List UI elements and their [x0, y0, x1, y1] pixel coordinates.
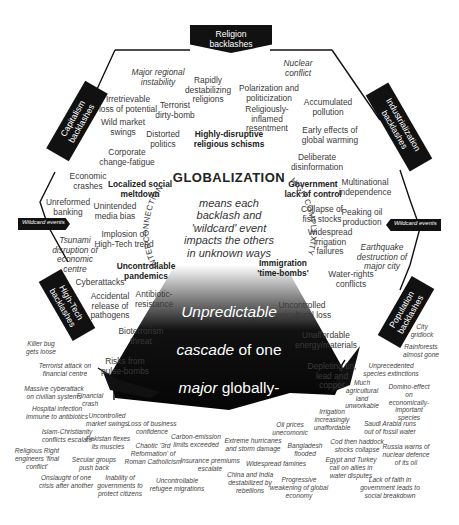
outer-label: Irrigation increasingly unaffordable	[314, 408, 351, 431]
inner-label: Deliberate disinformation	[291, 153, 343, 172]
outer-label: Massive cyberattack on civilian systems	[24, 385, 84, 401]
outer-label: Bangladesh flooded	[288, 442, 323, 458]
inner-label: Early effects of global warming	[302, 126, 358, 145]
inner-label: Localized social meltdown	[108, 180, 172, 199]
outer-label: Hospital infection immune to antibiotics	[26, 405, 88, 421]
outer-label: Uncontrolled market swings	[86, 412, 128, 428]
inner-label: Uncontrollable pandemics	[117, 262, 176, 281]
outer-label: Rainforests almost gone	[403, 343, 439, 359]
outer-label: Lack of faith in government leads to soc…	[360, 476, 420, 499]
inner-label: Terrorist dirty-bomb	[155, 101, 195, 120]
cascade-line-2b: of one	[234, 341, 281, 358]
inner-label: Uncontrolled agricultural loss	[273, 301, 331, 320]
cascade-line-1: Unpredictable	[181, 303, 277, 320]
inner-label: Accidental release of pathogens	[90, 292, 129, 321]
inner-label: Wild market swings	[101, 118, 145, 137]
inner-label: Polarization and politicization	[239, 84, 299, 103]
inner-label: Widespread irrigation failures	[308, 228, 353, 257]
outer-label: Widespread famines	[246, 460, 306, 468]
inner-label: Highly-disruptive religious schisms	[194, 130, 265, 149]
outer-label: Islam-Christianity conflicts escalate	[42, 428, 93, 444]
inner-label: Collapse of fish stocks	[301, 205, 343, 224]
wildcard-events-left-label: Wildcard events	[22, 219, 65, 225]
inner-label: Cyberattacks	[76, 278, 125, 288]
globalization-subtitle: means each backlash and 'wildcard' event…	[159, 197, 299, 259]
inner-label: Earthquake destruction of major city	[357, 243, 407, 272]
outer-label: Loss of business confidence	[127, 420, 176, 436]
cascade-line-3a: major	[179, 379, 218, 396]
cascade-line-4a: defined	[173, 417, 224, 434]
outer-label: Chaotic '3rd Reformation' of Roman Catho…	[124, 442, 181, 465]
cascade-line-3b: globally-	[217, 379, 279, 396]
outer-label: Uncontrollable refugee migrations	[150, 477, 205, 493]
inner-label: Corporate change-fatigue	[99, 148, 154, 167]
outer-label: Russia warns of nuclear defence of its o…	[383, 443, 430, 466]
outer-label: Progressive weakening of global economy	[270, 476, 328, 499]
inner-label: Multinational independence	[339, 178, 392, 197]
outer-label: Onslaught of one crisis after another	[39, 474, 93, 490]
inner-label: Irretrievable loss of potential	[99, 95, 157, 114]
outer-label: Terrorist attack on financial centre	[39, 362, 92, 378]
inner-label: Unaffordable energy/materials	[295, 331, 357, 350]
inner-label: Peaking oil production	[342, 208, 383, 227]
outer-label: City gridlock	[411, 323, 434, 339]
inner-label: Tsunami disruption of economic centre	[52, 236, 98, 274]
inner-label: Immigration 'time-bombs'	[257, 259, 308, 278]
inner-label: Unintended media bias	[94, 202, 137, 221]
outer-label: Religious Right engineers 'final conflic…	[15, 447, 59, 470]
inner-label: Major regional instability	[131, 68, 184, 87]
inner-label: Bioterrorism threat	[118, 327, 163, 346]
outer-label: Secular groups push back	[72, 456, 116, 472]
inner-label: Nuclear conflict	[284, 59, 313, 78]
outer-label: Unprecedented species extinctions	[363, 362, 418, 378]
inner-label: Economic crashes	[70, 172, 107, 191]
globalization-title: GLOBALIZATION	[173, 170, 285, 185]
inner-label: Risks from pulse-bombs	[101, 357, 149, 376]
inner-label: Antibiotic- resistance	[135, 290, 173, 309]
outer-label: Inability of governments to protect citi…	[97, 474, 142, 497]
outer-label: Cod then haddock stocks collapse	[330, 438, 384, 454]
outer-label: Saudi Arabia runs out of fossil water	[364, 420, 416, 436]
cascade-line-2a: cascade	[176, 341, 234, 358]
inner-label: Accumulated pollution	[304, 98, 352, 117]
outer-label: Oil prices unecomonic	[272, 421, 308, 437]
inner-label: Unreformed banking	[46, 198, 90, 217]
outer-label: Killer bug gets loose	[26, 340, 56, 356]
inner-label: Water-rights conflicts	[328, 270, 373, 289]
outer-label: Much agricultural land unworkable	[345, 379, 379, 410]
outer-label: Domino-effect on economically- important…	[384, 383, 434, 422]
wildcard-events-right-label: Wildcard events	[394, 220, 437, 226]
inner-label: Government lack of control	[284, 180, 341, 199]
outer-label: Extreme hurricanes and storm damage	[224, 437, 281, 453]
inner-label: Implosion of High-Tech trend	[94, 230, 153, 249]
inner-label: Distorted politics	[146, 130, 180, 149]
outer-label: China and India destabilized by rebellio…	[227, 471, 273, 494]
